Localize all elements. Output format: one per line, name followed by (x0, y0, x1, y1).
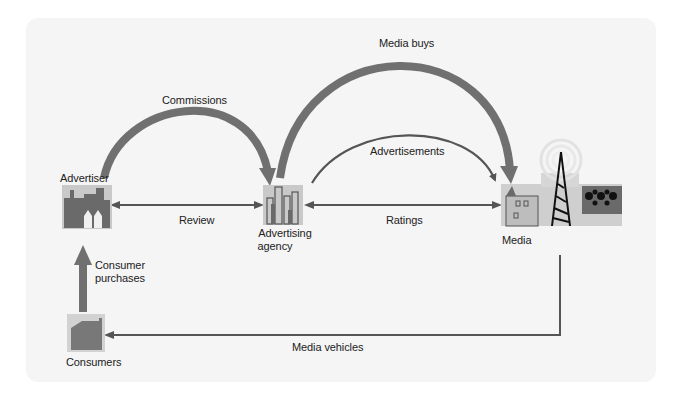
media-icons (501, 140, 622, 226)
media-label: Media (502, 234, 531, 247)
consumer-purchases-label-line1: Consumer (95, 259, 145, 272)
advertisements-label: Advertisements (370, 145, 444, 158)
media-vehicles-arrow (104, 255, 560, 339)
ratings-arrow (304, 201, 502, 209)
review-arrow (110, 201, 264, 209)
flow-arrows (0, 0, 680, 396)
consumer-purchases-label-line2: purchases (95, 272, 145, 285)
advertisements-arrow (312, 135, 495, 183)
arrowhead-icon (259, 168, 276, 186)
media-buys-label: Media buys (379, 37, 434, 50)
advertiser-factory-icon (62, 185, 112, 229)
advertiser-label: Advertiser (60, 172, 109, 185)
agency-label-line1: Advertising (255, 227, 315, 240)
arrowhead-icon (500, 166, 518, 184)
consumers-house-icon (67, 314, 105, 352)
consumers-label: Consumers (66, 356, 121, 369)
consumer-purchases-arrow (74, 245, 92, 312)
review-label: Review (179, 214, 214, 227)
agency-label-line2: agency (255, 240, 295, 253)
media-buys-arrow (280, 66, 518, 184)
media-vehicles-label: Media vehicles (292, 341, 363, 354)
commissions-arrow (104, 111, 276, 186)
commissions-label: Commissions (162, 94, 227, 107)
ratings-label: Ratings (386, 214, 423, 227)
agency-buildings-icon (263, 185, 303, 225)
